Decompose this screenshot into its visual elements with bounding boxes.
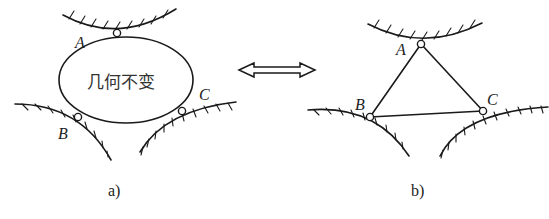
- caption-a: a): [108, 183, 120, 199]
- bar-ac: [421, 44, 483, 111]
- bar-bc: [370, 111, 483, 117]
- hinge-a-top: [113, 29, 120, 36]
- node-label-c: C: [199, 87, 210, 103]
- panel-b: [308, 20, 548, 158]
- rigid-body-text: 几何不变: [87, 74, 155, 91]
- ground-support-top-a: [63, 9, 176, 30]
- node-label-b: B: [58, 126, 68, 142]
- hinge-b-left: [74, 113, 81, 120]
- hinge-c-right: [178, 107, 185, 114]
- node-label-b: B: [355, 97, 365, 113]
- diagram-canvas: .ln { stroke: #1a1a1a; stroke-width: 1.6…: [0, 0, 549, 219]
- hinge-b-left: [366, 113, 373, 120]
- hinge-c-right: [479, 107, 486, 114]
- node-label-c: C: [487, 92, 498, 108]
- node-label-a: A: [75, 35, 85, 51]
- hinge-a-top: [417, 40, 424, 47]
- ground-support-right-b: [440, 106, 548, 158]
- ground-support-top-b: [368, 20, 482, 40]
- double-arrow-icon: [239, 63, 315, 77]
- ground-support-right-a: [140, 102, 236, 155]
- node-label-a: A: [396, 42, 406, 58]
- caption-b: b): [411, 183, 424, 199]
